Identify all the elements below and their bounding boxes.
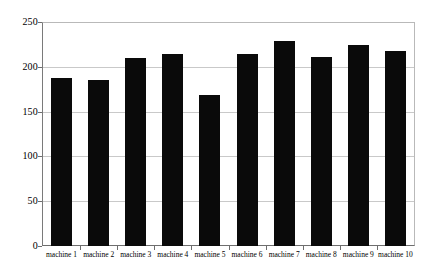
x-axis-labels: machine 1machine 2machine 3machine 4mach…	[43, 250, 414, 266]
bar	[311, 57, 332, 246]
bar	[162, 54, 183, 246]
x-axis-tick-label: machine 1	[43, 250, 80, 260]
x-axis-tick-label: machine 10	[377, 250, 414, 260]
bar-chart: 050100150200250 machine 1machine 2machin…	[0, 0, 428, 271]
x-axis-tick-label: machine 4	[154, 250, 191, 260]
bar	[237, 54, 258, 246]
y-axis-tick-mark	[38, 246, 42, 247]
bar	[199, 95, 220, 246]
bar	[51, 78, 72, 246]
x-axis-tick-label: machine 5	[191, 250, 228, 260]
y-axis-tick-marks	[0, 22, 42, 246]
bar	[125, 58, 146, 246]
bar	[274, 41, 295, 246]
x-axis-tick-label: machine 2	[80, 250, 117, 260]
x-axis-tick-label: machine 7	[266, 250, 303, 260]
bar	[348, 45, 369, 246]
x-axis-tick-label: machine 9	[340, 250, 377, 260]
x-axis-tick-label: machine 8	[303, 250, 340, 260]
x-axis-tick-label: machine 6	[229, 250, 266, 260]
bars-layer	[43, 22, 414, 246]
x-axis-tick-label: machine 3	[117, 250, 154, 260]
bar	[88, 80, 109, 246]
bar	[385, 51, 406, 246]
